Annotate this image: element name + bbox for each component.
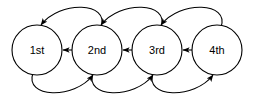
top-arc-2nd-to-1st	[41, 7, 102, 27]
bottom-arc-1st-to-2nd	[32, 73, 93, 93]
transition-diagram: 1st 2nd 3rd 4th	[0, 0, 263, 100]
diagram-canvas: 1st 2nd 3rd 4th	[0, 0, 263, 100]
top-arc-4th-to-3rd	[161, 7, 222, 27]
node-3rd[interactable]: 3rd	[132, 25, 182, 75]
node-3rd-label: 3rd	[149, 44, 165, 56]
node-4th-label: 4th	[209, 44, 224, 56]
node-2nd-label: 2nd	[88, 44, 106, 56]
bottom-arc-group	[32, 73, 213, 93]
node-2nd[interactable]: 2nd	[72, 25, 122, 75]
node-1st-label: 1st	[30, 44, 45, 56]
node-4th[interactable]: 4th	[192, 25, 242, 75]
top-arc-group	[41, 7, 222, 27]
bottom-arc-2nd-to-3rd	[92, 73, 153, 93]
node-1st[interactable]: 1st	[12, 25, 62, 75]
bottom-arc-3rd-to-4th	[152, 73, 213, 93]
top-arc-3rd-to-2nd	[101, 7, 162, 27]
